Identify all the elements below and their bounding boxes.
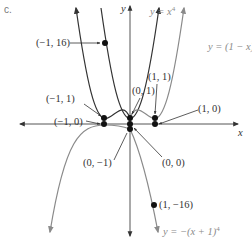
leader-1-0	[159, 110, 198, 124]
label-0-0: (0, 0)	[162, 157, 185, 169]
point-0-neg1	[127, 126, 133, 132]
label-1-neg16: (1, −16)	[159, 199, 193, 211]
label-0-neg1: (0, −1)	[83, 157, 112, 169]
point-neg1-1	[101, 115, 107, 121]
label-neg1-1: (−1, 1)	[46, 93, 75, 105]
point-0-1	[127, 115, 133, 121]
curve-left-down	[50, 125, 105, 232]
y-axis-label: y	[120, 3, 126, 14]
leader-0-1	[132, 98, 140, 114]
label-y-one-minus-x4: y = (1 − x)	[207, 41, 252, 53]
label-y-neg-x-plus-1-4: y = −(x + 1)4	[162, 225, 220, 238]
panel-label: c.	[4, 4, 12, 15]
point-neg1-16	[102, 40, 108, 46]
leader-0-0	[134, 128, 162, 157]
curve-center-link	[105, 125, 130, 129]
label-1-0: (1, 0)	[198, 103, 221, 115]
point-neg1-0	[101, 121, 107, 127]
label-0-1: (0, 1)	[132, 85, 155, 97]
x-axis-label: x	[237, 127, 243, 138]
point-1-neg16	[151, 202, 157, 208]
leader-1-1	[155, 84, 157, 114]
leader-0-neg1	[114, 133, 127, 160]
label-y-x4: y = x4	[149, 5, 176, 17]
point-1-1	[152, 115, 158, 121]
label-1-1: (1, 1)	[148, 71, 171, 83]
label-neg1-0: (−1, 0)	[54, 116, 83, 128]
point-1-0	[152, 121, 158, 127]
leader-neg1-1	[84, 104, 101, 116]
label-neg1-16: (−1, 16)	[36, 37, 70, 49]
graph-figure: c. x y y = x4 y = (1 − x) y = −(x + 1)4 …	[0, 0, 252, 239]
curve-neg-x-plus-1-4	[130, 129, 158, 232]
